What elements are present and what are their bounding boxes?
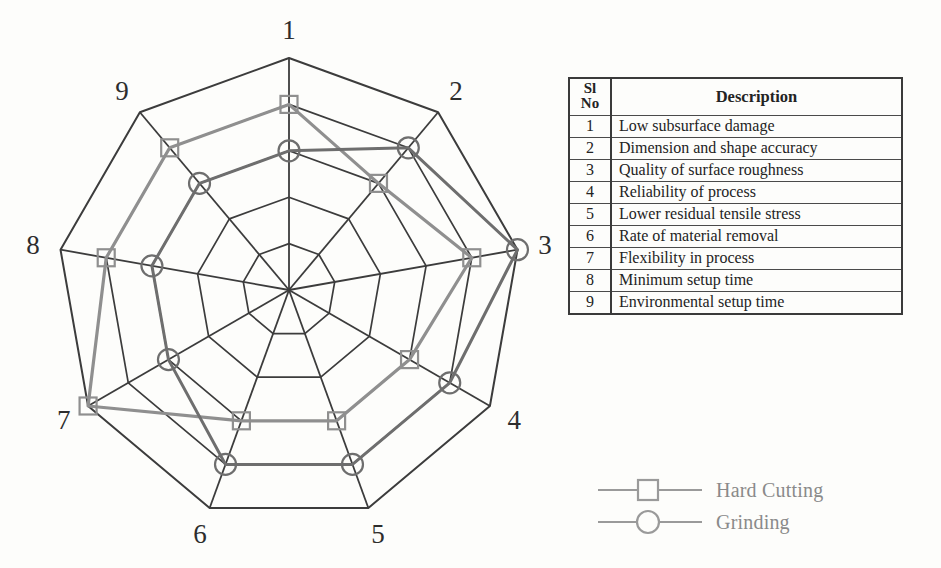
figure-root: 123456789 Sl No Description 1Low subsurf… <box>0 0 941 568</box>
table-row: 7Flexibility in process <box>569 247 902 269</box>
grid-spoke-8 <box>61 250 289 290</box>
cell-description: Environmental setup time <box>611 291 902 314</box>
cell-slno: 7 <box>569 247 611 269</box>
table-body: 1Low subsurface damage2Dimension and sha… <box>569 115 902 314</box>
axis-label-5: 5 <box>371 519 385 549</box>
slno-header-line2: No <box>581 95 599 111</box>
table-row: 3Quality of surface roughness <box>569 159 902 181</box>
table-row: 5Lower residual tensile stress <box>569 203 902 225</box>
slno-header-line1: Sl <box>584 80 597 96</box>
legend-label: Grinding <box>710 511 790 534</box>
markers-grinding <box>141 137 528 475</box>
cell-description: Low subsurface damage <box>611 115 902 137</box>
chart-legend: Hard CuttingGrinding <box>590 474 890 538</box>
axis-label-9: 9 <box>115 76 129 106</box>
axis-label-2: 2 <box>449 76 463 106</box>
cell-slno: 2 <box>569 137 611 159</box>
axis-label-1: 1 <box>282 15 296 45</box>
cell-slno: 9 <box>569 291 611 314</box>
table-row: 6Rate of material removal <box>569 225 902 247</box>
cell-description: Lower residual tensile stress <box>611 203 902 225</box>
cell-slno: 5 <box>569 203 611 225</box>
cell-description: Rate of material removal <box>611 225 902 247</box>
description-table: Sl No Description 1Low subsurface damage… <box>568 77 903 315</box>
table-row: 8Minimum setup time <box>569 269 902 291</box>
legend-marker-square-icon <box>590 475 710 505</box>
table-header: Sl No Description <box>569 78 902 115</box>
table-row: 2Dimension and shape accuracy <box>569 137 902 159</box>
axis-label-8: 8 <box>26 230 40 260</box>
cell-description: Minimum setup time <box>611 269 902 291</box>
grid-spoke-3 <box>289 250 517 290</box>
legend-item-hard-cutting: Hard Cutting <box>590 474 890 506</box>
cell-slno: 4 <box>569 181 611 203</box>
legend-item-grinding: Grinding <box>590 506 890 538</box>
column-header-description: Description <box>611 78 902 115</box>
radar-chart-svg: 123456789 <box>0 0 560 568</box>
cell-description: Flexibility in process <box>611 247 902 269</box>
axis-label-4: 4 <box>507 405 521 435</box>
axis-label-3: 3 <box>538 230 552 260</box>
table-row: 1Low subsurface damage <box>569 115 902 137</box>
radar-chart: 123456789 <box>0 0 560 568</box>
cell-slno: 6 <box>569 225 611 247</box>
legend-label: Hard Cutting <box>710 479 823 502</box>
grid-spoke-7 <box>88 290 289 406</box>
cell-slno: 8 <box>569 269 611 291</box>
axis-label-7: 7 <box>57 405 71 435</box>
table-row: 4Reliability of process <box>569 181 902 203</box>
axis-label-6: 6 <box>193 519 207 549</box>
grid-spoke-4 <box>289 290 490 406</box>
description-table-container: Sl No Description 1Low subsurface damage… <box>568 77 903 315</box>
table-header-row: Sl No Description <box>569 78 902 115</box>
cell-slno: 3 <box>569 159 611 181</box>
cell-description: Reliability of process <box>611 181 902 203</box>
cell-description: Quality of surface roughness <box>611 159 902 181</box>
legend-marker-circle-icon <box>590 507 710 537</box>
cell-slno: 1 <box>569 115 611 137</box>
table-row: 9Environmental setup time <box>569 291 902 314</box>
cell-description: Dimension and shape accuracy <box>611 137 902 159</box>
column-header-slno: Sl No <box>569 78 611 115</box>
